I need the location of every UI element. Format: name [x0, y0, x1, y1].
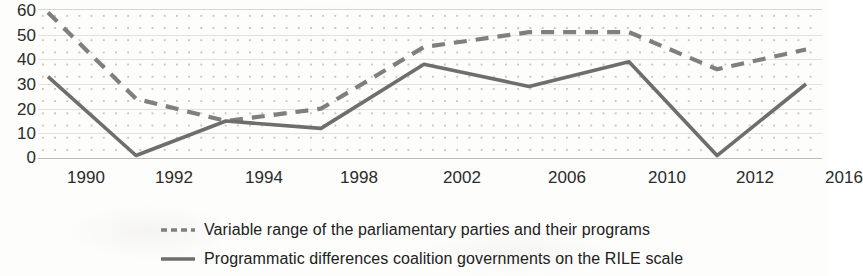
y-tick-label: 20	[2, 100, 36, 117]
x-tick-label: 1994	[245, 168, 283, 188]
solid-line-swatch-icon	[160, 253, 196, 265]
x-axis: 1990 1992 1994 1998 2002 2006 2010 2012 …	[38, 168, 822, 196]
x-tick-label: 1992	[155, 168, 193, 188]
y-tick-label: 30	[2, 76, 36, 93]
legend-label: Programmatic differences coalition gover…	[204, 250, 683, 268]
x-tick-label: 2012	[736, 168, 774, 188]
legend-entry-programmatic-differences: Programmatic differences coalition gover…	[160, 246, 683, 272]
y-tick-label: 40	[2, 51, 36, 68]
x-tick-label: 1990	[67, 168, 105, 188]
x-tick-label: 1998	[340, 168, 378, 188]
y-tick-label: 0	[2, 149, 36, 166]
y-tick-label: 60	[2, 2, 36, 19]
dashed-line-swatch-icon	[160, 224, 196, 236]
x-tick-label: 2002	[443, 168, 481, 188]
series-line-programmatic-differences	[48, 62, 806, 156]
y-tick-label: 50	[2, 26, 36, 43]
chart-legend: Variable range of the parliamentary part…	[0, 214, 829, 276]
legend-entry-variable-range: Variable range of the parliamentary part…	[160, 217, 650, 243]
x-tick-label: 2016	[825, 168, 863, 188]
plot-area	[38, 9, 822, 159]
legend-label: Variable range of the parliamentary part…	[204, 221, 650, 239]
y-tick-label: 10	[2, 125, 36, 142]
x-tick-label: 2010	[648, 168, 686, 188]
series-plot	[38, 10, 822, 158]
x-tick-label: 2006	[548, 168, 586, 188]
